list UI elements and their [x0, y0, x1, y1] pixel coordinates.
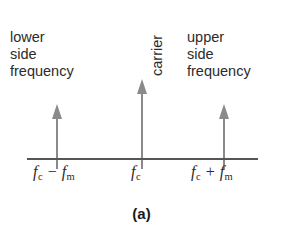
tick-operator: −	[43, 163, 62, 180]
tick-label-upper-side-frequency: fc+fm	[191, 163, 233, 181]
upper-side-frequency-line-1: upper	[187, 29, 251, 46]
figure-caption: (a)	[0, 205, 283, 222]
am-spectrum-figure: lower side frequency upper side frequenc…	[0, 0, 283, 247]
lower-side-frequency-label: lower side frequency	[10, 29, 74, 80]
tick-subscript: c	[135, 171, 140, 182]
upper-side-frequency-label: upper side frequency	[187, 29, 251, 80]
arrow-stem	[141, 87, 143, 169]
tick-operator: +	[201, 163, 220, 180]
lower-side-frequency-line-2: side	[10, 46, 74, 63]
tick-subscript: c	[195, 171, 200, 182]
tick-subscript-2: m	[66, 171, 75, 182]
tick-label-lower-side-frequency: fc−fm	[33, 163, 75, 181]
lower-side-frequency-line-1: lower	[10, 29, 74, 46]
tick-subscript-2: m	[224, 171, 233, 182]
tick-subscript: c	[37, 171, 42, 182]
lower-side-frequency-line-3: frequency	[10, 63, 74, 80]
frequency-axis	[27, 158, 258, 160]
upper-side-frequency-line-3: frequency	[187, 63, 251, 80]
arrow-stem	[223, 112, 225, 169]
carrier-label: carrier	[149, 35, 165, 76]
arrow-stem	[56, 112, 58, 169]
upper-side-frequency-line-2: side	[187, 46, 251, 63]
tick-label-carrier: fc	[131, 163, 141, 181]
